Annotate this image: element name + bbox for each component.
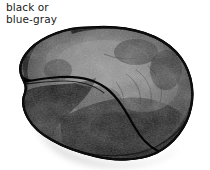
seed-body — [0, 0, 210, 170]
illustration-page: black or blue-gray — [0, 0, 210, 170]
seed-texture-grain-dark — [0, 0, 210, 170]
seed-illustration — [0, 0, 210, 170]
